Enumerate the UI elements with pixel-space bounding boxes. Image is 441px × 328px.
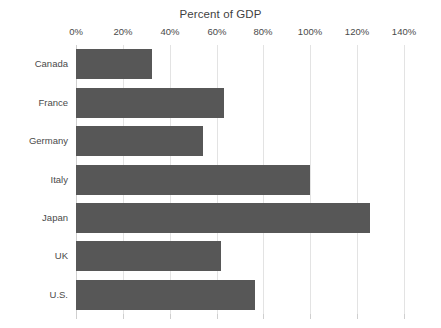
y-tick-label: France (0, 97, 68, 108)
y-tick-label: Germany (0, 135, 68, 146)
gridline-100pct (310, 45, 311, 314)
x-tick-label: 0% (56, 26, 96, 37)
x-tick-label: 20% (103, 26, 143, 37)
tick-mark-100pct (310, 314, 311, 319)
y-tick-label: Italy (0, 174, 68, 185)
y-tick-label: UK (0, 250, 68, 261)
x-tick-label: 40% (150, 26, 190, 37)
x-axis-ticks: 0%20%40%60%80%100%120%140% (76, 45, 404, 75)
x-tick-label: 120% (337, 26, 377, 37)
x-tick-label: 60% (197, 26, 237, 37)
bar-uk (76, 241, 221, 271)
y-tick-label: Canada (0, 58, 68, 69)
bar-u-s (76, 280, 255, 310)
tick-mark-20pct (123, 314, 124, 319)
y-tick-label: Japan (0, 212, 68, 223)
tick-mark-120pct (357, 314, 358, 319)
tick-mark-80pct (263, 314, 264, 319)
tick-mark-140pct (404, 314, 405, 319)
y-axis-labels: CanadaFranceGermanyItalyJapanUKU.S. (0, 45, 68, 314)
bar-france (76, 88, 224, 118)
x-tick-label: 100% (290, 26, 330, 37)
gridline-120pct (357, 45, 358, 314)
bar-italy (76, 165, 310, 195)
bar-germany (76, 126, 203, 156)
tick-mark-40pct (170, 314, 171, 319)
tick-mark-60pct (217, 314, 218, 319)
chart-title: Percent of GDP (0, 8, 441, 20)
bar-chart: Percent of GDP CanadaFranceGermanyItalyJ… (0, 0, 441, 328)
x-tick-label: 140% (384, 26, 424, 37)
tick-mark-0pct (76, 314, 77, 319)
y-tick-label: U.S. (0, 289, 68, 300)
bar-japan (76, 203, 370, 233)
gridline-140pct (404, 45, 405, 314)
plot-area (76, 45, 404, 314)
x-tick-label: 80% (243, 26, 283, 37)
